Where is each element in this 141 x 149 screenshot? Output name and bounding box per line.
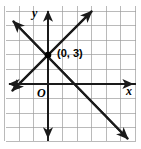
graph-svg (0, 0, 141, 149)
point-coordinate-label: (0, 3) (57, 48, 83, 59)
point-marker-0-3 (45, 52, 52, 59)
plot-background (6, 6, 136, 141)
y-axis-label: y (32, 7, 37, 19)
x-axis-label: x (126, 85, 132, 97)
origin-label: O (37, 87, 46, 99)
coordinate-graph-figure: y x O (0, 3) (0, 0, 141, 149)
